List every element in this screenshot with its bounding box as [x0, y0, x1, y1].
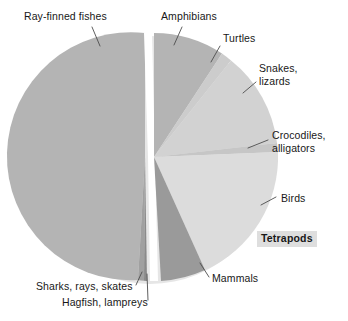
pie-chart-graphic: [0, 0, 348, 321]
label-crocodiles-line2: alligators: [272, 142, 315, 154]
label-sharks-rays-skates: Sharks, rays, skates: [36, 280, 133, 293]
pie-slice-ray-finned-fishes[interactable]: [7, 32, 145, 280]
label-snakes-lizards-line2: lizards: [259, 75, 290, 87]
label-tetrapods-highlight: Tetrapods: [257, 231, 317, 247]
label-mammals: Mammals: [212, 272, 258, 285]
label-turtles: Turtles: [223, 32, 255, 45]
label-crocodiles-line1: Crocodiles,: [272, 129, 326, 141]
label-snakes-lizards: Snakes, lizards: [259, 62, 329, 87]
pie-group-non-tetrapods: [7, 32, 147, 281]
pie-chart-figure: Ray-finned fishes Amphibians Turtles Sna…: [0, 0, 348, 321]
label-crocodiles-alligators: Crocodiles, alligators: [272, 129, 348, 154]
label-birds: Birds: [281, 192, 305, 205]
label-amphibians: Amphibians: [161, 10, 217, 23]
label-snakes-lizards-line1: Snakes,: [259, 62, 298, 74]
label-hagfish-lampreys: Hagfish, lampreys: [62, 296, 148, 309]
label-ray-finned-fishes: Ray-finned fishes: [24, 10, 107, 23]
